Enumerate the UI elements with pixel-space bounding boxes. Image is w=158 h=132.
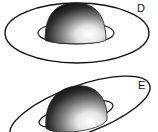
panel-e	[2, 62, 157, 132]
panel-label-e: E	[138, 80, 145, 91]
dome-e	[46, 86, 107, 132]
panel-d	[5, 3, 149, 63]
diagram-canvas	[0, 0, 158, 132]
panel-label-d: D	[137, 3, 145, 14]
